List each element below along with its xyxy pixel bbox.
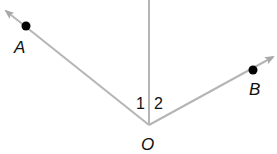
label-b: B bbox=[249, 80, 260, 99]
label-a: A bbox=[13, 38, 25, 57]
angle-label-2: 2 bbox=[154, 95, 163, 112]
angle-label-1: 1 bbox=[136, 95, 145, 112]
label-o: O bbox=[141, 135, 154, 154]
angle-diagram: A B O 1 2 bbox=[0, 0, 277, 154]
point-b bbox=[249, 66, 258, 75]
point-a bbox=[22, 22, 31, 31]
